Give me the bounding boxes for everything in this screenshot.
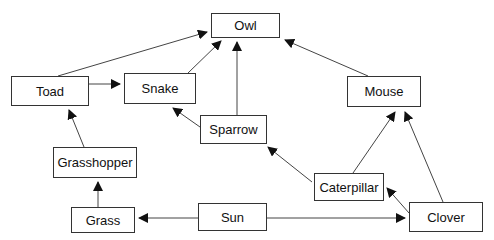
node-label: Owl xyxy=(234,18,256,33)
node-label: Clover xyxy=(427,210,465,225)
node-toad: Toad xyxy=(11,76,89,106)
node-label: Sparrow xyxy=(209,122,257,137)
node-owl: Owl xyxy=(211,13,280,38)
node-mouse: Mouse xyxy=(347,76,421,107)
node-label: Grasshopper xyxy=(57,155,132,170)
node-clover: Clover xyxy=(409,202,483,232)
edge-toad-to-owl xyxy=(58,32,207,76)
node-label: Snake xyxy=(142,81,179,96)
node-label: Toad xyxy=(36,84,64,99)
edge-snake-to-owl xyxy=(188,41,221,73)
node-grass: Grass xyxy=(71,207,135,233)
node-snake: Snake xyxy=(124,73,196,104)
node-label: Sun xyxy=(221,210,244,225)
node-label: Mouse xyxy=(364,84,403,99)
node-label: Caterpillar xyxy=(319,180,378,195)
node-caterpillar: Caterpillar xyxy=(314,173,384,201)
node-label: Grass xyxy=(86,213,121,228)
edge-clover-to-mouse xyxy=(405,112,443,202)
node-sun: Sun xyxy=(198,203,267,231)
edge-caterpillar-to-sparrow xyxy=(268,147,312,182)
node-grasshopper: Grasshopper xyxy=(53,147,137,178)
edge-clover-to-caterpillar xyxy=(387,188,409,213)
edge-grasshopper-to-toad xyxy=(69,110,84,147)
edge-mouse-to-owl xyxy=(285,40,368,76)
node-sparrow: Sparrow xyxy=(200,115,267,144)
edge-sparrow-to-snake xyxy=(173,108,200,127)
edge-caterpillar-to-mouse xyxy=(353,112,395,173)
